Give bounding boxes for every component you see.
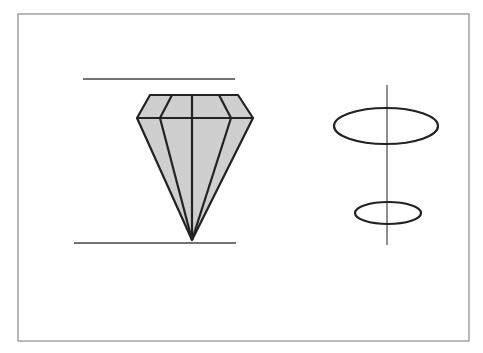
rotation-figure [334,85,438,245]
large-ellipse [334,108,438,144]
diagram-canvas [0,0,483,353]
diagram-frame [18,14,469,341]
diamond-outline [137,95,253,240]
small-ellipse [355,202,421,224]
diamond-figure [137,95,253,240]
